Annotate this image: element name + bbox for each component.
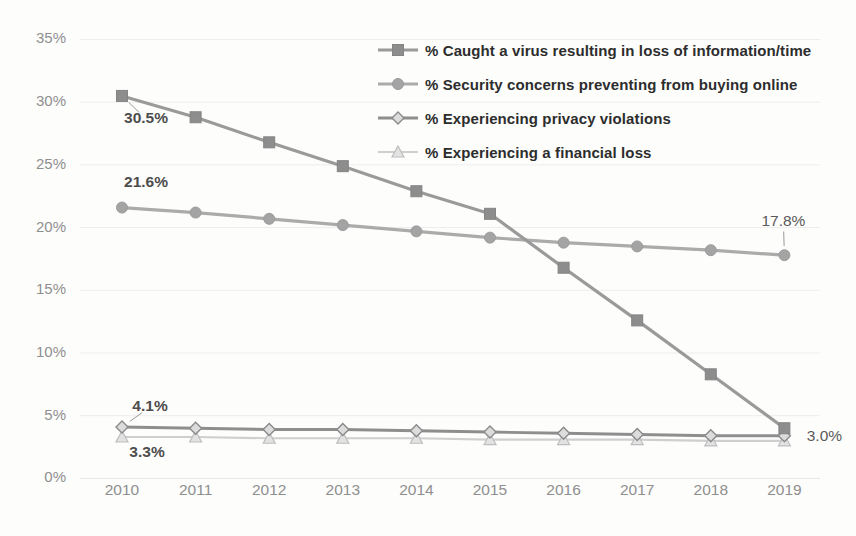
- legend-marker-circle-icon: [376, 75, 420, 93]
- marker-square: [485, 208, 496, 219]
- marker-diamond: [337, 423, 349, 435]
- marker-circle: [558, 237, 569, 248]
- legend-label: % Experiencing a financial loss: [425, 144, 652, 161]
- y-tick-label: 25%: [36, 155, 66, 172]
- x-tick-label: 2017: [620, 481, 654, 498]
- data-label: 3.0%: [807, 427, 843, 444]
- marker-circle: [485, 232, 496, 243]
- legend-label: % Experiencing privacy violations: [425, 110, 671, 127]
- marker-square: [558, 262, 569, 273]
- y-tick-label: 20%: [36, 218, 66, 235]
- marker-diamond: [392, 112, 404, 124]
- data-label: 21.6%: [124, 173, 168, 190]
- legend-label: % Caught a virus resulting in loss of in…: [425, 42, 811, 59]
- legend-item-security-concerns: % Security concerns preventing from buyi…: [376, 67, 811, 101]
- marker-diamond: [558, 427, 570, 439]
- marker-square: [779, 423, 790, 434]
- marker-diamond: [116, 421, 128, 433]
- legend-marker-square-icon: [376, 41, 420, 59]
- x-tick-label: 2018: [694, 481, 728, 498]
- legend-item-privacy-violations: % Experiencing privacy violations: [376, 101, 811, 135]
- marker-circle: [632, 241, 643, 252]
- marker-square: [117, 90, 128, 101]
- marker-square: [705, 369, 716, 380]
- marker-square: [632, 315, 643, 326]
- legend-label: % Security concerns preventing from buyi…: [425, 76, 797, 93]
- data-label: 3.3%: [129, 443, 165, 460]
- marker-diamond: [410, 425, 422, 437]
- legend-marker-diamond-icon: [376, 109, 420, 127]
- x-tick-label: 2019: [767, 481, 801, 498]
- marker-square: [264, 137, 275, 148]
- y-tick-label: 5%: [44, 406, 66, 423]
- series-line: [122, 208, 784, 256]
- legend-item-virus: % Caught a virus resulting in loss of in…: [376, 33, 811, 67]
- marker-circle: [411, 226, 422, 237]
- marker-square: [393, 45, 404, 56]
- marker-circle: [337, 220, 348, 231]
- x-tick-label: 2012: [252, 481, 286, 498]
- marker-diamond: [484, 426, 496, 438]
- series-line: [122, 437, 784, 441]
- x-tick-label: 2010: [105, 481, 140, 498]
- chart-legend: % Caught a virus resulting in loss of in…: [376, 33, 811, 169]
- line-chart-figure: 0%5%10%15%20%25%30%35%201020112012201320…: [0, 0, 856, 536]
- x-tick-label: 2011: [179, 481, 212, 498]
- marker-square: [337, 161, 348, 172]
- marker-diamond: [190, 422, 202, 434]
- y-tick-label: 10%: [36, 343, 66, 360]
- marker-circle: [705, 245, 716, 256]
- marker-circle: [393, 79, 404, 90]
- data-label: 17.8%: [761, 212, 805, 229]
- x-tick-label: 2013: [326, 481, 360, 498]
- marker-square: [411, 186, 422, 197]
- x-tick-label: 2015: [473, 481, 507, 498]
- marker-circle: [190, 207, 201, 218]
- data-label: 4.1%: [132, 397, 168, 414]
- x-tick-label: 2014: [399, 481, 434, 498]
- marker-circle: [779, 250, 790, 261]
- legend-item-financial-loss: % Experiencing a financial loss: [376, 135, 811, 169]
- marker-diamond: [263, 423, 275, 435]
- legend-marker-triangle-icon: [376, 143, 420, 161]
- y-tick-label: 35%: [36, 29, 66, 46]
- y-tick-label: 15%: [36, 280, 66, 297]
- marker-circle: [264, 213, 275, 224]
- marker-square: [190, 112, 201, 123]
- series-line: [122, 427, 784, 436]
- marker-circle: [117, 202, 128, 213]
- x-tick-label: 2016: [546, 481, 580, 498]
- data-label: 30.5%: [124, 109, 168, 126]
- y-tick-label: 30%: [36, 92, 66, 109]
- y-tick-label: 0%: [44, 468, 66, 485]
